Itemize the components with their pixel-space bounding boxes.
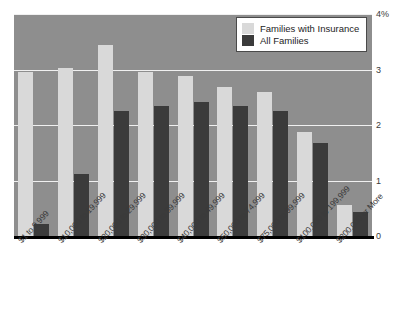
legend-item: All Families — [242, 35, 359, 46]
y-axis-tick-label: 3 — [376, 66, 381, 75]
chart-legend: Families with Insurance All Families — [236, 17, 367, 52]
bar — [98, 45, 113, 236]
bar — [18, 72, 33, 236]
gridline — [14, 14, 372, 15]
y-axis-tick-label: 1 — [376, 177, 381, 186]
y-axis-tick-label: 4% — [376, 10, 389, 19]
bar — [257, 92, 272, 236]
legend-swatch-all-families — [242, 35, 254, 46]
bar-chart: 01234% $1 to 9,999$10,000 to 19,999$20,0… — [0, 0, 408, 325]
y-axis-tick-label: 2 — [376, 121, 381, 130]
bar — [217, 87, 232, 236]
legend-swatch-families-with-insurance — [242, 23, 254, 34]
legend-label-families-with-insurance: Families with Insurance — [260, 23, 359, 34]
x-axis: $1 to 9,999$10,000 to 19,999$20,000 to 2… — [0, 238, 408, 325]
bar — [138, 72, 153, 236]
y-axis: 01234% — [376, 0, 408, 260]
bar — [58, 68, 73, 236]
legend-item: Families with Insurance — [242, 23, 359, 34]
legend-label-all-families: All Families — [260, 35, 309, 46]
bar — [178, 76, 193, 236]
